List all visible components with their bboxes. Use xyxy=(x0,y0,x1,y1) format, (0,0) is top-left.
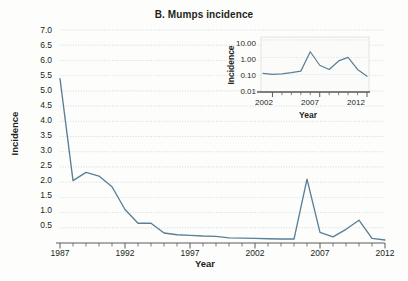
inset-plot-ticks xyxy=(272,92,367,97)
main-data-line xyxy=(60,79,385,240)
main-plot-ticks xyxy=(60,243,385,249)
figure-panel-b: B. Mumps incidence Incidence Year 7.0 6.… xyxy=(0,0,408,281)
inset-plot-background xyxy=(261,37,369,92)
chart-plot-surface xyxy=(0,0,408,281)
